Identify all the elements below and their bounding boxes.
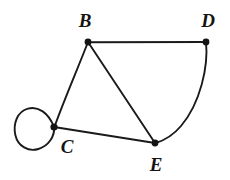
edge-b-e: [88, 42, 155, 143]
edge-layer: [15, 42, 207, 150]
graph-canvas: [0, 0, 230, 180]
vertex-dot-e[interactable]: [152, 140, 159, 147]
vertex-dot-d[interactable]: [203, 39, 210, 46]
vertex-dot-c[interactable]: [50, 123, 57, 130]
vertex-label-d: D: [201, 11, 215, 30]
vertex-dot-b[interactable]: [85, 39, 92, 46]
graph-figure: B D C E: [0, 0, 230, 180]
edge-b-c: [54, 42, 88, 127]
vertex-label-b: B: [79, 11, 92, 30]
vertex-label-c: C: [61, 137, 74, 156]
edge-self-loop-c: [15, 108, 54, 150]
vertex-label-e: E: [150, 155, 163, 174]
edge-d-e: [156, 42, 207, 143]
